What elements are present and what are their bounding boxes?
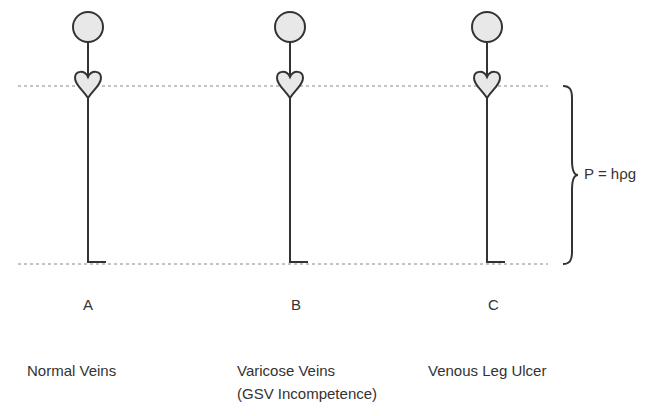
leg-vein-line (290, 98, 308, 262)
heart-icon (474, 72, 500, 98)
head-icon (275, 12, 305, 42)
figure-a (73, 12, 106, 262)
caption-line: Varicose Veins (237, 359, 377, 382)
leg-vein-line (487, 98, 505, 262)
caption-line: (GSV Incompetence) (237, 382, 377, 405)
head-icon (73, 12, 103, 42)
caption-line: Normal Veins (27, 359, 116, 382)
figure-b (275, 12, 308, 262)
curly-brace (563, 86, 578, 264)
heart-icon (277, 72, 303, 98)
figure-letter-a: A (83, 296, 93, 313)
caption-line: Venous Leg Ulcer (428, 359, 546, 382)
head-icon (472, 12, 502, 42)
figure-letter-c: C (488, 296, 499, 313)
leg-vein-line (88, 98, 106, 262)
caption-varicose-veins: Varicose Veins (GSV Incompetence) (237, 359, 377, 405)
figure-c (472, 12, 505, 262)
pressure-equation: P = hρg (584, 165, 636, 182)
caption-normal-veins: Normal Veins (27, 359, 116, 382)
heart-icon (75, 72, 101, 98)
caption-venous-leg-ulcer: Venous Leg Ulcer (428, 359, 546, 382)
figure-letter-b: B (291, 296, 301, 313)
vein-diagram (0, 0, 665, 416)
